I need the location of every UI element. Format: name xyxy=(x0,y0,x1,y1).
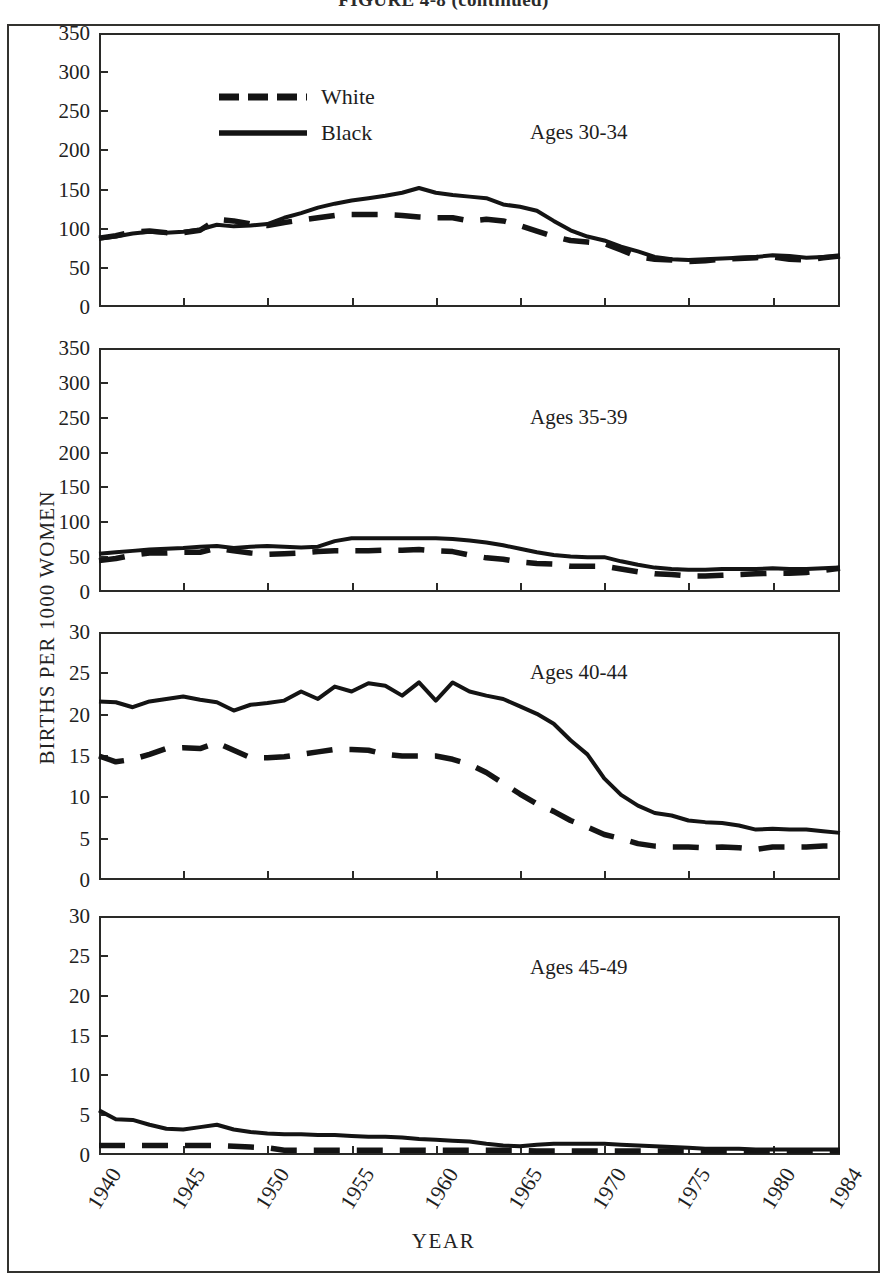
y-tick-label: 15 xyxy=(69,1023,90,1048)
y-axis-title: BIRTHS PER 1000 WOMEN xyxy=(35,413,60,843)
series-line-white xyxy=(99,215,840,262)
y-tick-label: 300 xyxy=(59,60,91,85)
x-axis-title: YEAR xyxy=(0,1229,887,1254)
legend-label: White xyxy=(321,84,375,110)
legend-item-black: Black xyxy=(219,115,375,151)
y-tick-label: 0 xyxy=(80,295,91,320)
y-tick-label: 0 xyxy=(80,868,91,893)
y-tick-label: 50 xyxy=(69,255,90,280)
y-tick-label: 20 xyxy=(69,702,90,727)
chart-panel-4: 051015202530Ages 45-49 xyxy=(99,916,840,1155)
y-tick-label: 200 xyxy=(59,440,91,465)
y-tick-label: 100 xyxy=(59,216,91,241)
y-tick-label: 150 xyxy=(59,475,91,500)
panel-title-4: Ages 45-49 xyxy=(530,955,627,980)
y-tick-label: 200 xyxy=(59,138,91,163)
chart-panel-3: 051015202530Ages 40-44 xyxy=(99,632,840,880)
panel-title-2: Ages 35-39 xyxy=(530,405,627,430)
y-tick-label: 250 xyxy=(59,405,91,430)
legend-swatch-solid xyxy=(219,126,307,140)
legend-swatch-dashed xyxy=(219,90,307,104)
y-tick-label: 250 xyxy=(59,99,91,124)
panel-title-1: Ages 30-34 xyxy=(530,120,627,145)
legend-item-white: White xyxy=(219,79,375,115)
y-tick-label: 5 xyxy=(80,826,91,851)
chart-panel-1: 050100150200250300350Ages 30-34WhiteBlac… xyxy=(99,33,840,307)
y-tick-label: 25 xyxy=(69,661,90,686)
y-tick-label: 300 xyxy=(59,370,91,395)
y-tick-label: 20 xyxy=(69,983,90,1008)
y-tick-label: 50 xyxy=(69,545,90,570)
series-line-white xyxy=(99,743,840,850)
y-tick-label: 0 xyxy=(80,580,91,605)
y-tick-label: 350 xyxy=(59,336,91,361)
y-tick-label: 100 xyxy=(59,510,91,535)
chart-legend: WhiteBlack xyxy=(219,79,375,151)
series-layer-4 xyxy=(99,916,840,1155)
y-tick-label: 10 xyxy=(69,785,90,810)
chart-panel-2: 050100150200250300350Ages 35-39 xyxy=(99,348,840,592)
y-tick-label: 0 xyxy=(80,1143,91,1168)
panel-title-3: Ages 40-44 xyxy=(530,660,627,685)
y-tick-label: 5 xyxy=(80,1103,91,1128)
y-tick-label: 350 xyxy=(59,21,91,46)
y-tick-label: 150 xyxy=(59,177,91,202)
series-layer-2 xyxy=(99,348,840,592)
y-tick-label: 15 xyxy=(69,744,90,769)
y-tick-label: 30 xyxy=(69,904,90,929)
series-layer-1 xyxy=(99,33,840,307)
y-tick-label: 10 xyxy=(69,1063,90,1088)
figure-root: FIGURE 4-8 (continued) BIRTHS PER 1000 W… xyxy=(0,0,887,1281)
series-layer-3 xyxy=(99,632,840,880)
series-line-black xyxy=(99,682,840,832)
series-line-black xyxy=(99,188,840,260)
series-line-white xyxy=(99,548,840,576)
series-line-black xyxy=(99,538,840,569)
y-tick-label: 25 xyxy=(69,943,90,968)
figure-caption: FIGURE 4-8 (continued) xyxy=(0,0,887,11)
y-tick-label: 30 xyxy=(69,620,90,645)
legend-label: Black xyxy=(321,120,372,146)
